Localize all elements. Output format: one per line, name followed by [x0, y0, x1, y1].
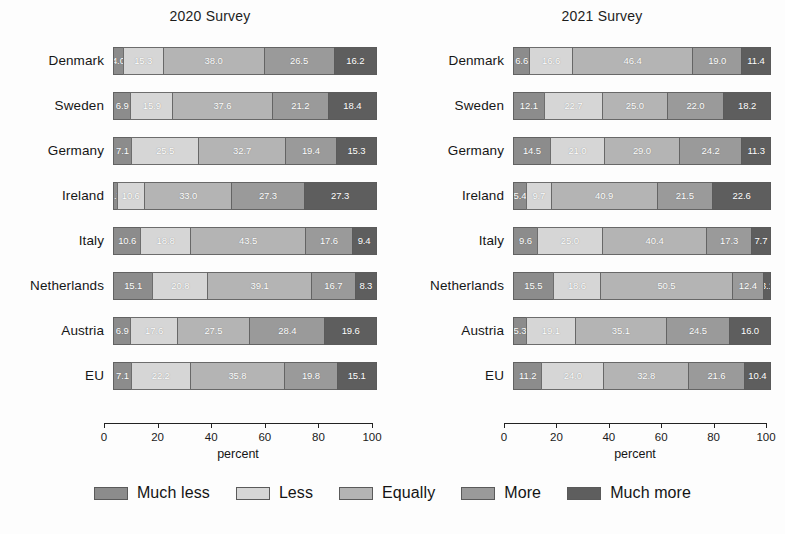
bar-segment-value: 17.6: [320, 235, 338, 246]
bar-segment: 21.2: [272, 92, 329, 120]
axis-tick: [372, 423, 373, 428]
bar-segment: 15.9: [130, 92, 173, 120]
category-label: Netherlands: [0, 278, 113, 293]
bar-segment: 32.7: [198, 137, 286, 165]
bar-segment-value: 18.4: [343, 100, 361, 111]
legend-item: Less: [236, 484, 313, 502]
category-label: Denmark: [392, 53, 513, 68]
bar-segment: 8.3: [355, 272, 377, 300]
bar-row: Sweden12.122.725.022.018.2: [392, 83, 784, 128]
bar-segment: 12.4: [732, 272, 764, 300]
bar-segment: 6.9: [113, 92, 131, 120]
bar-segment: 9.7: [526, 182, 551, 210]
bar-segment: 10.6: [113, 227, 141, 255]
axis-tick: [661, 423, 662, 428]
panel-title-right: 2021 Survey: [392, 0, 784, 24]
bar-segment-value: 15.3: [134, 55, 152, 66]
axis-tick: [211, 423, 212, 428]
category-label: Germany: [0, 143, 113, 158]
bar-segment-value: 6.6: [515, 55, 528, 66]
bar-segment: 22.0: [667, 92, 725, 120]
bar-segment: 35.8: [190, 362, 286, 390]
bar-segment: 43.5: [190, 227, 307, 255]
bar-segment-value: 27.5: [204, 325, 222, 336]
bar-segment-value: 6.9: [116, 325, 129, 336]
legend-item: Much less: [94, 484, 210, 502]
bar-segment-value: 17.6: [145, 325, 163, 336]
bar-segment: 6.9: [113, 317, 131, 345]
category-label: Austria: [392, 323, 513, 338]
bar-segment-value: 50.5: [657, 280, 675, 291]
bar-segment-value: 11.2: [519, 370, 536, 381]
legend-swatch: [339, 487, 373, 500]
bar-segment: 25.0: [537, 227, 603, 255]
axis-tick: [766, 423, 767, 428]
bar-segment: 10.4: [744, 362, 771, 390]
bar-segment-value: 5.3: [513, 325, 526, 336]
bar-segment-value: 10.4: [748, 370, 766, 381]
bar-segment: 7.7: [751, 227, 771, 255]
bar-segment: 18.8: [140, 227, 190, 255]
bar-segment-value: 29.0: [633, 145, 651, 156]
bar-segment: 22.7: [544, 92, 603, 120]
bar-segment: 3.1: [763, 272, 771, 300]
panel-title-left: 2020 Survey: [0, 0, 392, 24]
bar-segment-value: 27.3: [331, 190, 349, 201]
bar-row: EU11.224.032.821.610.4: [392, 353, 784, 398]
axis-tick-label: 20: [550, 431, 563, 443]
bar-segment-value: 16.2: [346, 55, 364, 66]
bar-segment-value: 40.4: [646, 235, 664, 246]
bar-segment-value: 22.6: [733, 190, 751, 201]
axis-title-right: percent: [614, 447, 656, 461]
bar-segment-value: 25.5: [156, 145, 174, 156]
bar-segment-value: 15.1: [124, 280, 142, 291]
bar-segment: 16.6: [529, 47, 572, 75]
plot-area-left: Denmark4.015.338.026.516.2Sweden6.915.93…: [0, 38, 392, 423]
bar-segment: 9.4: [352, 227, 377, 255]
bar-segment-value: 3.1: [763, 280, 771, 291]
legend-swatch: [236, 487, 270, 500]
axis-tick-label: 80: [312, 431, 325, 443]
bar-segment: 7.1: [113, 362, 132, 390]
stacked-bar: 11.224.032.821.610.4: [513, 362, 775, 390]
bar-segment-value: 35.1: [612, 325, 630, 336]
bar-row: Ireland1.710.633.027.327.3: [0, 173, 392, 218]
bar-segment-value: 20.8: [171, 280, 189, 291]
bar-segment: 26.5: [264, 47, 335, 75]
axis-tick: [609, 423, 610, 428]
bar-segment: 24.2: [679, 137, 742, 165]
bar-segment: 25.5: [131, 137, 199, 165]
category-label: Ireland: [0, 188, 113, 203]
panel-2021-survey: 2021 Survey Denmark6.616.646.419.011.4Sw…: [392, 0, 784, 478]
bar-segment-value: 16.6: [542, 55, 560, 66]
bar-segment: 15.3: [123, 47, 164, 75]
bar-segment-value: 27.3: [259, 190, 277, 201]
bar-row: Ireland5.49.740.921.522.6: [392, 173, 784, 218]
axis-title-left: percent: [217, 447, 259, 461]
bar-segment-value: 26.5: [290, 55, 308, 66]
chart-legend: Much lessLessEquallyMoreMuch more: [0, 484, 785, 502]
axis-tick: [104, 423, 105, 428]
stacked-bar: 10.618.843.517.69.4: [113, 227, 381, 255]
x-axis-left: 020406080100 percent: [0, 423, 392, 469]
bar-row: Denmark4.015.338.026.516.2: [0, 38, 392, 83]
bar-segment-value: 18.2: [738, 100, 756, 111]
bar-segment: 14.5: [513, 137, 551, 165]
stacked-bar: 1.710.633.027.327.3: [113, 182, 381, 210]
axis-tick-label: 60: [655, 431, 668, 443]
bar-segment-value: 33.0: [179, 190, 197, 201]
category-label: Ireland: [392, 188, 513, 203]
bar-segment-value: 7.1: [116, 370, 129, 381]
bar-segment-value: 37.6: [213, 100, 231, 111]
bar-segment-value: 10.6: [118, 235, 136, 246]
bar-segment-value: 38.0: [205, 55, 223, 66]
stacked-bar-figure: 2020 Survey Denmark4.015.338.026.516.2Sw…: [0, 0, 785, 534]
category-label: EU: [392, 368, 513, 383]
bar-segment-value: 9.7: [532, 190, 545, 201]
stacked-bar: 7.122.235.819.815.1: [113, 362, 381, 390]
bar-segment: 19.4: [285, 137, 337, 165]
bar-segment-value: 24.2: [702, 145, 720, 156]
stacked-bar: 15.518.650.512.43.1: [513, 272, 775, 300]
bar-segment: 50.5: [600, 272, 732, 300]
bar-segment-value: 19.8: [302, 370, 320, 381]
